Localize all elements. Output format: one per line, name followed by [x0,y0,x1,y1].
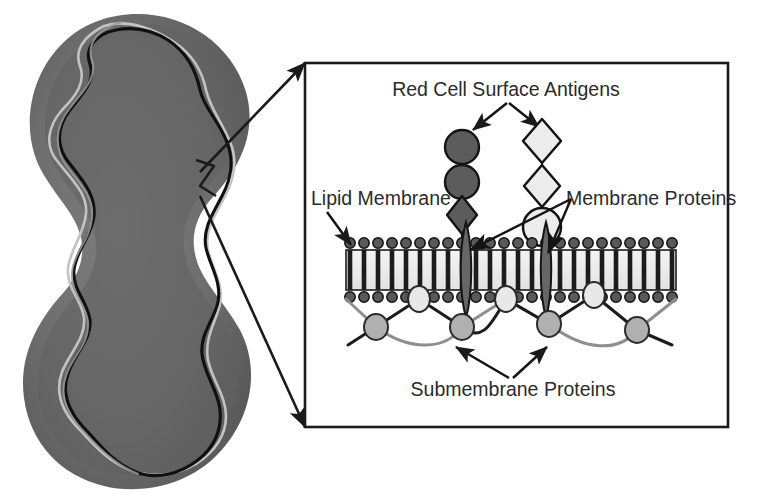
transmembrane-protein-right-shape [541,222,552,318]
antigen-circle-dark-1 [445,130,479,164]
spectrin-node [495,286,517,312]
spectrin-node [583,282,605,308]
label-membrane-proteins: Membrane Proteins [566,187,736,209]
antigen-chain-light [523,119,561,250]
membrane-diagram: Red Cell Surface Antigens [0,0,759,502]
bilayer-interior [346,250,676,290]
label-lipid-membrane: Lipid Membrane [311,187,451,209]
label-submembrane-proteins: Submembrane Proteins [411,378,616,400]
transmembrane-protein-right [541,222,552,318]
spectrin-node [408,286,430,312]
spectrin-node [625,317,649,343]
spectrin-node [537,311,561,337]
spectrin-node [450,314,474,340]
figure-root: Red Cell Surface Antigens [0,0,759,502]
transmembrane-protein-left [461,222,472,318]
transmembrane-protein-left-shape [461,222,472,318]
label-red-cell-surface-antigens: Red Cell Surface Antigens [392,78,620,100]
spectrin-node [364,314,388,340]
red-blood-cell [23,14,251,489]
